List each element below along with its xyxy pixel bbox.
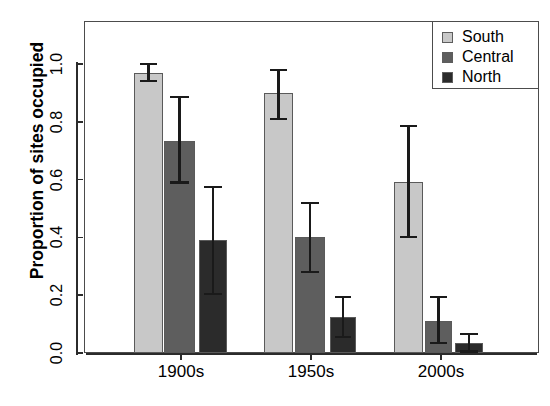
y-tick [76,237,83,239]
error-bar-cap-lower [140,80,158,82]
x-tick-label-1900s: 1900s [136,362,226,382]
error-bar-line [468,334,470,351]
error-bar-cap-upper [204,186,221,188]
legend-swatch-south [442,32,453,43]
y-tick-label: 0.4 [48,224,66,250]
legend-item-south: South [442,27,504,47]
legend-label: Central [462,49,514,65]
y-tick-label-wrap: 0.4 [44,227,70,247]
error-bar-line [147,64,149,81]
legend-item-north: North [442,67,501,87]
error-bar-cap-lower [335,336,351,338]
x-tick-label-1950s: 1950s [266,362,356,382]
error-bar-line [212,187,214,294]
error-bar-cap-upper [460,333,477,335]
error-bar-cap-lower [301,271,320,273]
error-bar-cap-upper [270,69,288,71]
y-tick-label: 0.6 [48,167,66,193]
y-tick-label-wrap: 0.6 [44,170,70,190]
error-bar-cap-lower [204,293,221,295]
y-tick [76,179,83,181]
y-tick-label-wrap: 1.0 [44,54,70,74]
y-tick [76,63,83,65]
chart-root: 0.00.20.40.60.81.0 Proportion of sites o… [0,0,550,406]
error-bar-line [437,297,439,343]
legend-label: South [462,29,504,45]
y-axis-line [76,62,78,355]
y-axis-title: Proportion of sites occupied [27,31,48,291]
y-tick-label-wrap: 0.2 [44,285,70,305]
error-bar-cap-upper [170,96,189,98]
y-tick-label: 0.0 [48,340,66,366]
error-bar-cap-upper [140,63,158,65]
error-bar-line [407,126,409,237]
error-bar-cap-upper [301,202,320,204]
y-tick [76,294,83,296]
legend-swatch-north [442,72,453,83]
y-tick-label: 0.8 [48,109,66,135]
error-bar-line [277,70,279,119]
x-tick [180,353,182,360]
error-bar-cap-lower [430,342,447,344]
y-tick [76,352,83,354]
error-bar-cap-upper [335,296,351,298]
error-bar-cap-lower [400,236,418,238]
y-tick-label: 0.2 [48,282,66,308]
y-tick-label: 1.0 [48,51,66,77]
error-bar-cap-lower [270,118,288,120]
error-bar-cap-upper [400,125,418,127]
y-tick-label-wrap: 0.0 [44,343,70,363]
bar-south-1900s [134,73,163,353]
error-bar-line [309,203,311,272]
error-bar-line [178,97,180,182]
chart-title-cropped [0,0,550,9]
bar-south-1950s [264,93,293,353]
error-bar-cap-lower [170,181,189,183]
legend-item-central: Central [442,47,514,67]
x-tick [440,353,442,360]
legend-swatch-central [442,52,453,63]
y-tick [76,121,83,123]
error-bar-line [342,297,344,337]
x-tick [310,353,312,360]
legend-label: North [462,69,501,85]
x-tick-label-2000s: 2000s [396,362,486,382]
y-tick-label-wrap: 0.8 [44,112,70,132]
legend-box: SouthCentralNorth [432,21,539,89]
error-bar-cap-upper [430,296,447,298]
